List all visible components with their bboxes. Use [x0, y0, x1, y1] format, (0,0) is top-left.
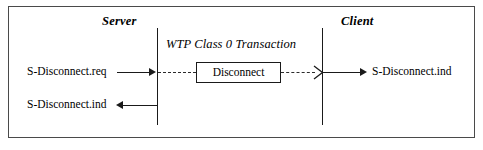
diagram-canvas: Server Client WTP Class 0 Transaction S-… [0, 0, 483, 150]
pdu-dash-left [158, 72, 196, 73]
server-request-arrowhead-icon [149, 68, 156, 76]
server-indication-line [123, 105, 158, 106]
server-lifeline [157, 28, 158, 125]
pdu-label: Disconnect [213, 67, 265, 79]
server-indication-arrowhead-icon [116, 101, 123, 109]
client-indication-arrowhead-icon [360, 68, 367, 76]
client-title: Client [341, 15, 373, 28]
pdu-box: Disconnect [196, 62, 281, 83]
client-indication-line [322, 72, 361, 73]
server-title: Server [102, 15, 137, 28]
server-indication-label: S-Disconnect.ind [27, 99, 107, 111]
server-request-line [117, 72, 150, 73]
server-request-label: S-Disconnect.req [27, 66, 107, 78]
transaction-label: WTP Class 0 Transaction [166, 38, 296, 51]
client-indication-label: S-Disconnect.ind [372, 66, 452, 78]
